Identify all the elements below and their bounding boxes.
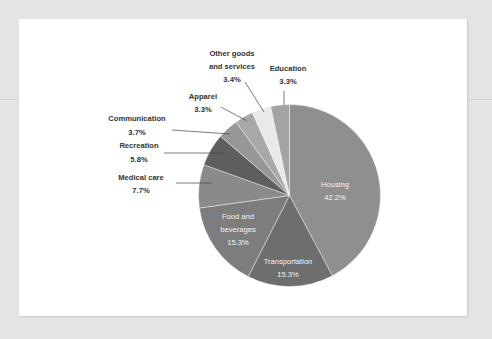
label-communication: Communication <box>108 114 166 123</box>
label-medical: Medical care <box>118 173 164 182</box>
label-other-line2: and services <box>209 62 255 71</box>
label-transportation: Transportation <box>264 257 313 266</box>
leader-apparel <box>221 107 247 121</box>
label-communication-pct: 3.7% <box>128 128 146 137</box>
pie-chart: Housing 42.2% Transportation 15.3% Food … <box>0 0 492 339</box>
label-housing: Housing <box>321 180 349 189</box>
label-education: Education <box>270 64 307 73</box>
label-medical-pct: 7.7% <box>132 186 150 195</box>
leader-other <box>245 82 264 112</box>
label-other-pct: 3.4% <box>223 75 241 84</box>
label-other: Other goods <box>209 49 254 58</box>
label-food: Food and <box>222 212 254 221</box>
label-apparel-pct: 3.3% <box>194 105 212 114</box>
label-food-pct: 15.3% <box>227 238 249 247</box>
label-housing-pct: 42.2% <box>324 193 346 202</box>
leader-communication <box>172 130 230 134</box>
label-food-line2: beverages <box>220 225 256 234</box>
label-apparel: Apparel <box>189 92 217 101</box>
label-education-pct: 3.3% <box>279 77 297 86</box>
label-recreation-pct: 5.8% <box>130 155 148 164</box>
label-recreation: Recreation <box>119 141 159 150</box>
label-transportation-pct: 15.3% <box>277 270 299 279</box>
